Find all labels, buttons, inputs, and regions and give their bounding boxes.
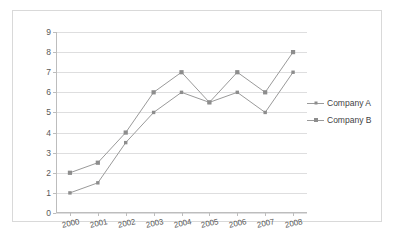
y-axis-tick-label: 7 xyxy=(46,68,51,77)
data-series-layer xyxy=(56,32,307,213)
data-point-marker xyxy=(291,50,295,54)
chart-screenshot: 0123456789 20002001200220032004200520062… xyxy=(0,0,397,236)
data-point-marker xyxy=(180,91,183,94)
data-point-marker xyxy=(179,70,183,74)
legend-marker-icon-company-a xyxy=(307,99,324,108)
data-point-marker xyxy=(68,171,72,175)
data-point-marker xyxy=(236,91,239,94)
legend-label-company-a: Company A xyxy=(327,99,371,108)
x-axis-tick-label: 2000 xyxy=(61,218,80,230)
data-point-marker xyxy=(68,191,71,194)
x-axis-tick-mark xyxy=(293,213,294,216)
x-axis-tick-mark xyxy=(98,213,99,216)
y-axis-tick-label: 8 xyxy=(46,48,51,57)
x-axis-tick-mark xyxy=(237,213,238,216)
y-axis-tick-label: 3 xyxy=(46,148,51,157)
legend-label-company-b: Company B xyxy=(327,116,371,125)
x-axis-tick-label: 2008 xyxy=(284,218,303,230)
series-company-b xyxy=(68,50,295,175)
data-point-marker xyxy=(263,90,267,94)
data-point-marker xyxy=(207,100,211,104)
x-axis-tick-label: 2007 xyxy=(256,218,275,230)
x-axis-tick-label: 2002 xyxy=(117,218,136,230)
legend: Company A Company B xyxy=(307,98,371,125)
y-axis-tick-mark xyxy=(53,213,56,214)
x-axis-tick-mark xyxy=(70,213,71,216)
x-axis-tick-mark xyxy=(209,213,210,216)
x-axis-tick-label: 2005 xyxy=(201,218,220,230)
data-point-marker xyxy=(96,161,100,165)
x-axis-tick-label: 2004 xyxy=(173,218,192,230)
data-point-marker xyxy=(291,71,294,74)
series-line xyxy=(70,72,293,193)
data-point-marker xyxy=(124,141,127,144)
data-point-marker xyxy=(152,90,156,94)
x-axis-tick-mark xyxy=(126,213,127,216)
y-axis-tick-label: 2 xyxy=(46,169,51,178)
legend-marker-icon-company-b xyxy=(307,116,324,125)
data-point-marker xyxy=(96,181,99,184)
y-axis-tick-label: 1 xyxy=(46,189,51,198)
plot-area: 0123456789 20002001200220032004200520062… xyxy=(56,32,307,213)
x-axis-tick-label: 2006 xyxy=(229,218,248,230)
data-point-marker xyxy=(124,130,128,134)
data-point-marker xyxy=(263,111,266,114)
x-axis-tick-mark xyxy=(265,213,266,216)
y-axis-tick-label: 0 xyxy=(46,209,51,218)
y-axis-tick-label: 4 xyxy=(46,128,51,137)
legend-item-company-b[interactable]: Company B xyxy=(307,115,371,125)
legend-item-company-a[interactable]: Company A xyxy=(307,98,371,108)
x-axis-tick-label: 2001 xyxy=(89,218,108,230)
y-axis-tick-label: 6 xyxy=(46,88,51,97)
x-axis-tick-label: 2003 xyxy=(145,218,164,230)
data-point-marker xyxy=(235,70,239,74)
x-axis-tick-mark xyxy=(154,213,155,216)
y-axis-tick-label: 5 xyxy=(46,108,51,117)
y-axis-tick-label: 9 xyxy=(46,28,51,37)
data-point-marker xyxy=(152,111,155,114)
x-axis-tick-mark xyxy=(182,213,183,216)
